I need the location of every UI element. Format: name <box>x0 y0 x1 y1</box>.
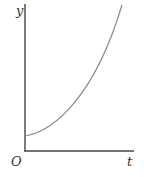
function-graph <box>0 0 144 177</box>
x-axis-label: t <box>127 155 132 168</box>
curve <box>25 5 122 136</box>
y-axis-label: y <box>16 4 23 17</box>
origin-label: O <box>11 155 22 168</box>
